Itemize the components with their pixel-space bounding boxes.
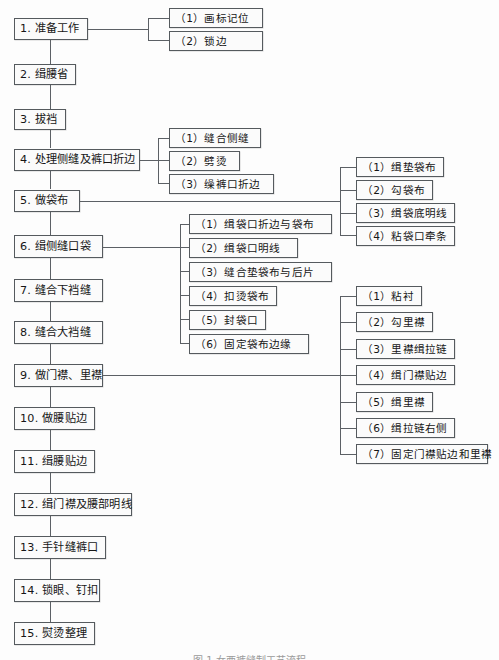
branch-rail-s1 bbox=[148, 18, 149, 40]
connector-s11-s12 bbox=[50, 473, 51, 493]
branch-lead-s9-3 bbox=[340, 349, 356, 350]
branch-stem-s5 bbox=[80, 201, 340, 202]
branch-lead-s9-5 bbox=[340, 402, 356, 403]
branch-lead-s5-4 bbox=[340, 235, 356, 236]
flow-subnode-s1-2[interactable]: （2）锁边 bbox=[169, 31, 263, 51]
flow-subnode-s6-5[interactable]: （5）封袋口 bbox=[189, 310, 266, 330]
branch-lead-s4-2 bbox=[158, 160, 169, 161]
flow-node-step-3[interactable]: 3. 拔裆 bbox=[14, 109, 66, 130]
flow-node-step-10[interactable]: 10. 做腰贴边 bbox=[14, 407, 95, 430]
branch-lead-s1-1 bbox=[148, 18, 169, 19]
connector-s4-s5 bbox=[50, 171, 51, 189]
connector-s5-s6 bbox=[50, 212, 51, 235]
flowchart-canvas: 1. 准备工作 2. 缉腰省 3. 拔裆 4. 处理侧缝及裤口折边 5. 做袋布… bbox=[0, 0, 499, 660]
flow-subnode-s4-3[interactable]: （3）缲裤口折边 bbox=[169, 174, 274, 194]
connector-s13-s14 bbox=[50, 559, 51, 579]
flow-subnode-s9-5[interactable]: （5）缉里襟 bbox=[356, 392, 433, 412]
branch-lead-s4-3 bbox=[158, 183, 169, 184]
branch-lead-s9-7 bbox=[340, 454, 356, 455]
branch-lead-s6-3 bbox=[180, 271, 189, 272]
branch-lead-s5-1 bbox=[340, 167, 356, 168]
flow-node-step-11[interactable]: 11. 缉腰贴边 bbox=[14, 450, 95, 473]
branch-lead-s9-4 bbox=[340, 375, 356, 376]
branch-lead-s6-5 bbox=[180, 319, 189, 320]
branch-lead-s9-6 bbox=[340, 428, 356, 429]
flow-subnode-s9-2[interactable]: （2）勾里襟 bbox=[356, 312, 433, 332]
branch-stem-s1 bbox=[88, 29, 148, 30]
connector-s7-s8 bbox=[50, 302, 51, 321]
flow-subnode-s1-1[interactable]: （1）画标记位 bbox=[169, 8, 263, 28]
branch-lead-s6-6 bbox=[180, 343, 189, 344]
connector-s12-s13 bbox=[50, 516, 51, 536]
branch-rail-s5 bbox=[340, 167, 341, 235]
flow-subnode-s6-3[interactable]: （3）缝合垫袋布与后片 bbox=[189, 262, 332, 282]
branch-lead-s5-3 bbox=[340, 213, 356, 214]
flow-subnode-s4-2[interactable]: （2）劈烫 bbox=[169, 151, 240, 171]
flow-subnode-s9-1[interactable]: （1）粘衬 bbox=[356, 286, 422, 306]
flow-node-step-5[interactable]: 5. 做袋布 bbox=[14, 190, 80, 212]
flow-subnode-s4-1[interactable]: （1）缝合侧缝 bbox=[169, 128, 261, 148]
flow-subnode-s9-4[interactable]: （4）缉门襟贴边 bbox=[356, 365, 455, 385]
flow-subnode-s9-6[interactable]: （6）缉拉链右侧 bbox=[356, 418, 455, 438]
flow-node-step-4[interactable]: 4. 处理侧缝及裤口折边 bbox=[14, 149, 140, 171]
connector-s2-s3 bbox=[50, 85, 51, 110]
flow-subnode-s6-1[interactable]: （1）缉袋口折边与袋布 bbox=[189, 214, 332, 234]
connector-s9-s10 bbox=[50, 387, 51, 407]
branch-lead-s6-4 bbox=[180, 295, 189, 296]
flow-subnode-s6-2[interactable]: （2）缉袋口明线 bbox=[189, 238, 298, 258]
branch-lead-s5-2 bbox=[340, 190, 356, 191]
branch-lead-s6-1 bbox=[180, 224, 189, 225]
flow-node-step-12[interactable]: 12. 缉门襟及腰部明线 bbox=[14, 493, 132, 516]
connector-s3-s4 bbox=[50, 130, 51, 148]
flow-subnode-s9-3[interactable]: （3）里襟缉拉链 bbox=[356, 339, 455, 359]
flow-subnode-s5-4[interactable]: （4）粘袋口牵条 bbox=[356, 226, 455, 246]
flow-node-step-9[interactable]: 9. 做门襟、里襟 bbox=[14, 364, 103, 387]
branch-lead-s9-1 bbox=[340, 296, 356, 297]
flow-subnode-s9-7[interactable]: （7）固定门襟贴边和里襟 bbox=[356, 444, 488, 464]
connector-s10-s11 bbox=[50, 430, 51, 450]
branch-stem-s9 bbox=[103, 375, 340, 376]
connector-s14-s15 bbox=[50, 602, 51, 622]
flow-subnode-s5-2[interactable]: （2）勾袋布 bbox=[356, 180, 433, 200]
branch-lead-s6-2 bbox=[180, 247, 189, 248]
branch-rail-s6 bbox=[180, 224, 181, 343]
connector-s6-s7 bbox=[50, 258, 51, 279]
flow-node-step-14[interactable]: 14. 锁眼、钉扣 bbox=[14, 579, 100, 602]
flow-node-step-13[interactable]: 13. 手针缝裤口 bbox=[14, 536, 106, 559]
connector-s1-s2 bbox=[50, 40, 51, 65]
connector-s8-s9 bbox=[50, 344, 51, 364]
flow-node-step-6[interactable]: 6. 缉侧缝口袋 bbox=[14, 235, 103, 258]
flow-subnode-s6-4[interactable]: （4）扣烫袋布 bbox=[189, 286, 277, 306]
branch-lead-s9-2 bbox=[340, 322, 356, 323]
figure-caption: 图 1 女西裤缝制工艺流程 bbox=[0, 652, 499, 660]
branch-stem-s6 bbox=[103, 247, 180, 248]
flow-subnode-s5-1[interactable]: （1）缉垫袋布 bbox=[356, 157, 444, 177]
flow-node-step-8[interactable]: 8. 缝合大裆缝 bbox=[14, 321, 103, 344]
branch-lead-s4-1 bbox=[158, 138, 169, 139]
flow-subnode-s5-3[interactable]: （3）缉袋底明线 bbox=[356, 203, 455, 223]
flow-node-step-2[interactable]: 2. 缉腰省 bbox=[14, 64, 76, 85]
flow-node-step-7[interactable]: 7. 缝合下裆缝 bbox=[14, 279, 103, 302]
flow-node-step-1[interactable]: 1. 准备工作 bbox=[14, 18, 88, 40]
flow-node-step-15[interactable]: 15. 熨烫整理 bbox=[14, 622, 95, 645]
branch-lead-s1-2 bbox=[148, 40, 169, 41]
branch-stem-s4 bbox=[140, 160, 158, 161]
flow-subnode-s6-6[interactable]: （6）固定袋布边缘 bbox=[189, 334, 309, 354]
